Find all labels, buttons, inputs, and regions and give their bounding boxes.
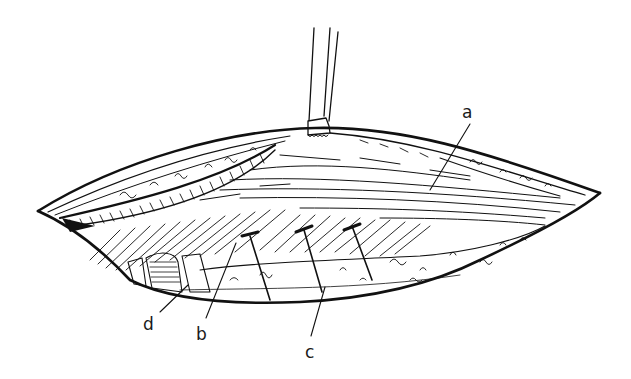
label-b: b — [196, 326, 207, 343]
label-a: a — [462, 104, 472, 121]
hatched-muscle — [90, 210, 430, 270]
retractor-instrument — [308, 28, 338, 137]
tissue-blocks — [128, 253, 210, 292]
right-skin-edge — [330, 133, 585, 196]
surgical-illustration — [0, 0, 631, 379]
label-d: d — [143, 316, 154, 333]
label-c: c — [305, 344, 314, 361]
upper-skin-flap — [48, 136, 290, 232]
tissue-bed — [180, 226, 545, 290]
